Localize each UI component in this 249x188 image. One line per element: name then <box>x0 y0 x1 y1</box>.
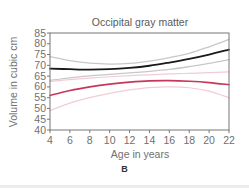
x-tick-label: 6 <box>67 134 73 146</box>
y-tick-label: 85 <box>34 27 46 39</box>
x-tick-label: 16 <box>163 134 175 146</box>
chart-title: Occipital gray matter <box>92 16 189 28</box>
x-tick-label: 20 <box>203 134 215 146</box>
y-tick-label: 50 <box>34 102 46 114</box>
x-axis: 46810121416182022 <box>47 130 235 146</box>
x-tick-label: 8 <box>87 134 93 146</box>
x-axis-label: Age in years <box>111 148 169 160</box>
divider <box>0 185 249 188</box>
y-axis: 40455055606570758085 <box>34 27 50 136</box>
x-tick-label: 18 <box>183 134 195 146</box>
series-line-male-upper-ci <box>50 39 229 64</box>
y-tick-label: 45 <box>34 113 46 125</box>
line-chart: Occipital gray matter 404550556065707580… <box>0 0 249 160</box>
series-line-male-mean <box>50 50 229 70</box>
y-tick-label: 65 <box>34 70 46 82</box>
x-tick-label: 22 <box>223 134 235 146</box>
y-tick-label: 70 <box>34 59 46 71</box>
panel-label: B <box>0 164 249 174</box>
x-tick-label: 14 <box>144 134 156 146</box>
y-tick-label: 75 <box>34 48 46 60</box>
y-tick-label: 80 <box>34 37 46 49</box>
y-tick-label: 40 <box>34 124 46 136</box>
plot-area <box>50 39 229 110</box>
y-tick-label: 55 <box>34 91 46 103</box>
y-axis-label: Volume in cubic cm <box>7 37 19 128</box>
y-tick-label: 60 <box>34 80 46 92</box>
x-tick-label: 10 <box>104 134 116 146</box>
series-line-female-lower-ci <box>50 87 229 111</box>
x-tick-label: 12 <box>124 134 136 146</box>
x-tick-label: 4 <box>47 134 53 146</box>
